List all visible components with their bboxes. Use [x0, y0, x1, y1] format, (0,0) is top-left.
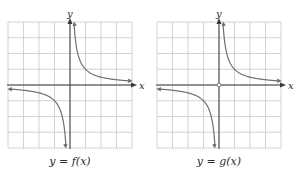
x-axis-label: x [139, 80, 145, 91]
x-axis-arrow-icon [280, 83, 286, 88]
x-axis-label: x [288, 80, 294, 91]
y-axis-label: y [66, 8, 73, 19]
left-chart-caption: y = f(x) [5, 155, 135, 168]
curve-left-branch [10, 89, 66, 145]
curve-right-branch [74, 24, 130, 80]
x-axis-arrow-icon [131, 83, 137, 88]
charts-canvas: xyxy [0, 0, 297, 177]
chart-g: xy [156, 8, 294, 149]
y-axis-label: y [215, 8, 222, 19]
curve-right-branch [223, 24, 279, 80]
right-chart-caption: y = g(x) [154, 155, 284, 168]
curve-left-branch [159, 89, 215, 145]
chart-f: xy [7, 8, 145, 149]
open-circle-icon [217, 83, 221, 87]
